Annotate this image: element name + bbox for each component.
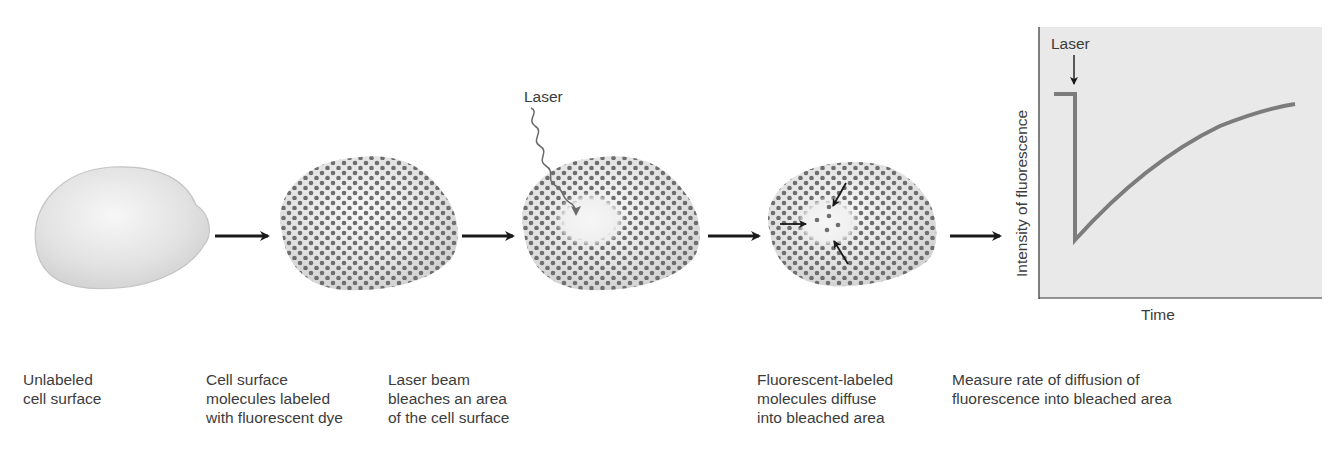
unlabeled-cell <box>35 167 209 289</box>
diffusing-cell <box>758 150 958 300</box>
bleached-cell <box>512 108 712 300</box>
caption-bleach: Laser beam bleaches an area of the cell … <box>388 370 509 427</box>
bleached-spot <box>554 192 626 248</box>
caption-diffuse: Fluorescent-labeled molecules diffuse in… <box>757 370 893 427</box>
laser-label: Laser <box>524 88 563 106</box>
chart-y-axis-label: Intensity of fluorescence <box>1013 110 1031 277</box>
plot-area <box>1039 27 1322 298</box>
caption-unlabeled: Unlabeled cell surface <box>23 370 101 408</box>
caption-measure: Measure rate of diffusion of fluorescenc… <box>952 370 1172 408</box>
chart-laser-label: Laser <box>1051 35 1090 53</box>
fluorescence-chart <box>1039 27 1322 299</box>
bleached-spot <box>796 196 860 248</box>
labeled-cell <box>270 150 470 300</box>
caption-labeled: Cell surface molecules labeled with fluo… <box>206 370 343 427</box>
chart-x-axis-label: Time <box>1141 306 1175 324</box>
